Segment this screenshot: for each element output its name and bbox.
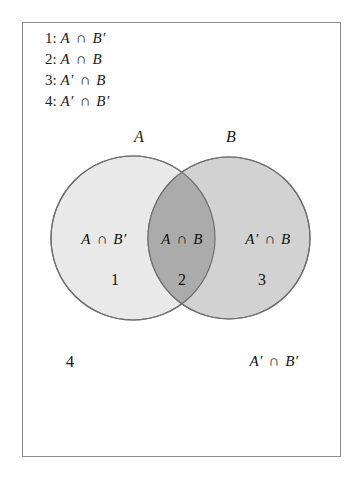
legend-item-3-index: 3:: [45, 72, 57, 88]
legend-list: 1: A ∩ B′ 2: A ∩ B 3: A′ ∩ B 4: A′ ∩ B′: [45, 28, 205, 112]
legend-item-1-index: 1:: [45, 30, 57, 46]
legend-item-4-index: 4:: [45, 93, 57, 109]
region-3-expression: A′ ∩ B: [222, 231, 314, 248]
legend-item-3-left: A′: [60, 72, 73, 88]
region-4-right: B′: [285, 353, 298, 369]
legend-item-2-right: B: [92, 51, 102, 67]
region-2-left: A: [161, 231, 171, 247]
region-1-number: 1: [98, 271, 132, 289]
venn-diagram-figure: 1: A ∩ B′ 2: A ∩ B 3: A′ ∩ B 4: A′ ∩ B′ …: [0, 0, 360, 481]
intersection-icon: ∩: [175, 231, 190, 247]
region-2-right: B: [193, 231, 203, 247]
region-1-expression: A ∩ B′: [58, 231, 150, 248]
region-4-expression: A′ ∩ B′: [228, 353, 320, 370]
legend-item-1-left: A: [60, 30, 70, 46]
intersection-icon: ∩: [262, 231, 277, 247]
legend-item-2-index: 2:: [45, 51, 57, 67]
region-1-right: B′: [113, 231, 126, 247]
region-2-expression: A ∩ B: [145, 231, 219, 248]
region-4-left: A′: [249, 353, 262, 369]
region-3-number: 3: [245, 271, 279, 289]
intersection-icon: ∩: [267, 353, 282, 369]
legend-item-3: 3: A′ ∩ B: [45, 70, 205, 91]
intersection-icon: ∩: [95, 231, 110, 247]
region-4-number: 4: [60, 353, 80, 371]
legend-item-2-left: A: [60, 51, 70, 67]
intersection-icon: ∩: [78, 93, 93, 109]
legend-item-4-left: A′: [60, 93, 73, 109]
region-2-number: 2: [165, 271, 199, 289]
legend-item-1-right: B′: [92, 30, 105, 46]
set-label-a: A: [134, 128, 144, 146]
region-3-right: B: [281, 231, 291, 247]
intersection-icon: ∩: [78, 72, 93, 88]
intersection-icon: ∩: [74, 51, 89, 67]
set-label-b: B: [226, 128, 236, 146]
legend-item-4: 4: A′ ∩ B′: [45, 91, 205, 112]
region-3-left: A′: [245, 231, 258, 247]
legend-item-4-right: B′: [96, 93, 109, 109]
intersection-icon: ∩: [74, 30, 89, 46]
legend-item-2: 2: A ∩ B: [45, 49, 205, 70]
legend-item-3-right: B: [96, 72, 106, 88]
legend-item-1: 1: A ∩ B′: [45, 28, 205, 49]
region-1-left: A: [81, 231, 91, 247]
